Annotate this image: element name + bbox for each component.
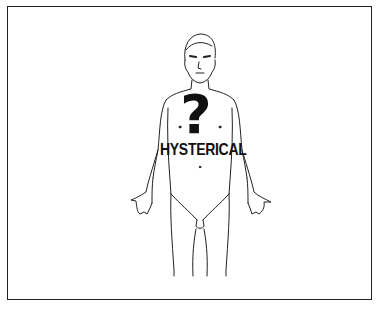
head: [185, 34, 216, 83]
question-mark-icon: ?: [176, 88, 216, 142]
arms: [131, 150, 271, 214]
legs: [171, 194, 230, 276]
figure-label: HYSTERICAL: [160, 140, 240, 158]
briefs: [171, 194, 229, 228]
